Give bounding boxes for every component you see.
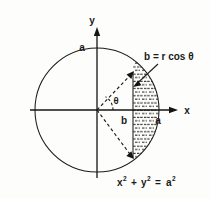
circle-equation: x 2 + y 2 = a 2 (117, 175, 176, 188)
equation-equals-sign: = (155, 177, 161, 188)
figure-container: y a x a b θ b = r cos θ x 2 + y 2 = a 2 (0, 0, 210, 199)
callout-label: b = r cos θ (144, 51, 194, 62)
y-axis-arrowhead (94, 27, 100, 36)
chord-b-label: b (121, 115, 127, 126)
equation-term3-exponent: 2 (172, 175, 176, 182)
angle-arc (106, 97, 114, 110)
y-radius-tick-label: a (79, 42, 85, 53)
equation-plus-sign: + (131, 177, 137, 188)
x-axis-arrowhead (169, 107, 178, 113)
x-radius-tick-label: a (155, 115, 161, 126)
angle-theta-label: θ (113, 95, 118, 106)
equation-term2-exponent: 2 (147, 175, 151, 182)
equation-term1-exponent: 2 (123, 175, 127, 182)
x-axis-label: x (184, 105, 190, 116)
circle-segment-diagram: y a x a b θ b = r cos θ x 2 + y 2 = a 2 (0, 0, 210, 199)
y-axis-label: y (89, 15, 95, 26)
